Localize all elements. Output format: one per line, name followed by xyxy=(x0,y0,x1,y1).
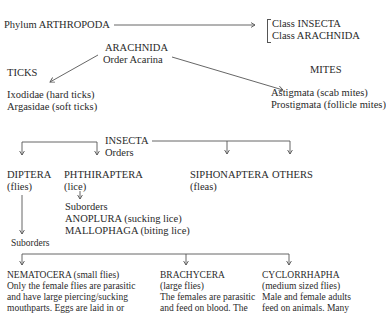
phylum-label: Phylum ARTHROPODA xyxy=(4,19,110,31)
brachycera-desc-line: The females are parasitic xyxy=(160,292,255,303)
insecta-orders-label: Orders xyxy=(105,147,134,159)
arrow-arachnida-to-mites xyxy=(172,57,283,90)
class-insecta: Class INSECTA xyxy=(272,18,341,30)
cyclorrhapha-desc-line: Male and female adults xyxy=(262,292,351,303)
insecta-title: INSECTA xyxy=(105,135,149,147)
phthiraptera-suborders-label: Suborders xyxy=(65,201,108,213)
mites-title: MITES xyxy=(310,64,342,76)
brachycera-desc-line: and feed on blood. The xyxy=(160,303,248,313)
cyclorrhapha-desc-line: (medium sized flies) xyxy=(262,281,340,292)
order-diptera: DIPTERA xyxy=(7,169,51,181)
nematocera-desc-line: Only the female flies are parasitic xyxy=(7,281,135,292)
ticks-title: TICKS xyxy=(7,67,37,79)
mite-item: Astigmata (scab mites) xyxy=(271,87,368,99)
order-diptera-common: (flies) xyxy=(7,181,32,193)
phthiraptera-suborder: MALLOPHAGA (biting lice) xyxy=(65,225,190,237)
tick-item: Argasidae (soft ticks) xyxy=(7,101,97,113)
brachycera-desc-line: (large flies) xyxy=(160,281,204,292)
order-phthiraptera: PHTHIRAPTERA xyxy=(64,169,143,181)
order-siphonaptera-common: (fleas) xyxy=(190,181,217,193)
class-arachnida: Class ARACHNIDA xyxy=(272,30,360,42)
suborder-cyclorrhapha: CYCLORRHAPHA xyxy=(262,270,340,281)
arrow-arachnida-to-ticks xyxy=(50,55,98,82)
phthiraptera-suborder: ANOPLURA (sucking lice) xyxy=(65,213,182,225)
order-siphonaptera: SIPHONAPTERA xyxy=(190,169,269,181)
classes-bracket xyxy=(267,19,271,43)
suborder-nematocera: NEMATOCERA (small flies) xyxy=(7,270,119,281)
nematocera-desc-line: mouthparts. Eggs are laid in or xyxy=(7,303,124,313)
arachnida-order: Order Acarina xyxy=(103,54,163,66)
cyclorrhapha-desc-line: feed on animals. Many xyxy=(262,303,349,313)
diptera-suborders-label: Suborders xyxy=(11,238,50,249)
nematocera-desc-line: and have large piercing/sucking xyxy=(7,292,128,303)
mite-item: Prostigmata (follicle mites) xyxy=(271,99,386,111)
tick-item: Ixodidae (hard ticks) xyxy=(7,89,94,101)
suborder-brachycera: BRACHYCERA xyxy=(160,270,225,281)
order-phthiraptera-common: (lice) xyxy=(64,181,86,193)
order-others: OTHERS xyxy=(272,169,313,181)
arachnida-title: ARACHNIDA xyxy=(105,42,168,54)
